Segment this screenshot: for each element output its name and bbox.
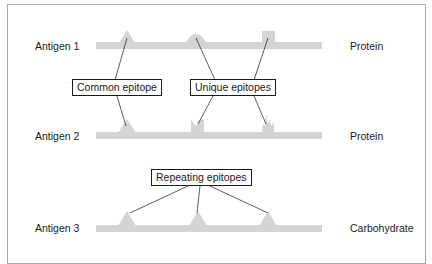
antigen-2-type: Protein xyxy=(350,130,383,142)
square-epitope-icon xyxy=(262,31,275,43)
antigen-2-backbone xyxy=(96,132,322,139)
triangle-epitope-icon xyxy=(259,211,277,226)
triangle-epitope-icon xyxy=(118,119,136,133)
triangle-epitope-icon xyxy=(189,211,207,226)
antigen-1-molecule xyxy=(96,30,322,49)
repeating-epitopes-callout: Repeating epitopes xyxy=(151,169,252,186)
antigen-1-label: Antigen 1 xyxy=(35,40,79,52)
antigen-3-label: Antigen 3 xyxy=(35,222,79,234)
triangle-epitope-icon xyxy=(118,211,136,226)
antigen-1-type: Protein xyxy=(350,40,383,52)
triangle-epitope-icon xyxy=(119,30,135,43)
connector-line xyxy=(117,96,126,126)
unique-epitopes-callout: Unique epitopes xyxy=(190,79,276,96)
antigen-2-label: Antigen 2 xyxy=(35,130,79,142)
connector-line xyxy=(197,186,200,213)
antigen-3-molecule xyxy=(96,211,322,232)
antigen-2-molecule xyxy=(96,114,322,139)
antigen-3-type: Carbohydrate xyxy=(350,222,414,234)
spiky-epitope-icon xyxy=(262,114,274,133)
common-epitope-callout: Common epitope xyxy=(72,79,162,96)
notched-epitope-icon xyxy=(191,120,204,133)
antigen-3-backbone xyxy=(96,225,322,232)
connector-line xyxy=(130,186,188,213)
connector-line xyxy=(254,96,266,124)
antigen-1-backbone xyxy=(96,42,322,49)
connector-line xyxy=(198,96,213,124)
connector-line xyxy=(210,186,268,213)
